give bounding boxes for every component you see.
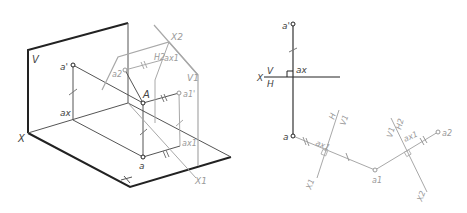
x-axis [28,103,128,133]
a1prime-ax1-line [179,93,180,146]
epure-label-aprime: a' [282,21,290,31]
label-a: a [139,161,145,171]
label-V: V [32,54,40,65]
epure-point-aprime [291,22,295,26]
tick-mark [166,150,169,157]
label-ax: ax [60,108,72,118]
point-a [141,155,145,159]
point-a2 [123,68,127,72]
projection-diagram: V X a' ax A a a1' ax1 X1 X2 H2 ax1 a2 V1 [0,0,467,213]
point-a1prime [177,91,181,95]
epure-label-V: V [267,66,274,76]
point-A [141,101,145,105]
epure-point-a1 [373,168,377,172]
epure-label-a: a [283,132,289,142]
right-angle-mark [287,71,293,77]
label-a2: a2 [112,70,122,79]
epure-a-a1-line [293,136,375,170]
label-aprime: a' [60,62,68,72]
h-marker-tick [124,176,130,183]
epure-label-V1-left: V1 [338,114,350,127]
tick-mark [346,153,349,161]
ax-a-line [73,120,143,157]
epure-label-H: H [267,79,274,89]
label-A: A [142,89,150,100]
point-aprime [71,63,75,67]
isometric-view: V X a' ax A a a1' ax1 X1 X2 H2 ax1 a2 V1 [17,23,231,187]
h2-plane-outline [102,42,198,90]
epure-label-H2-right: H2 [394,117,406,130]
tick-mark [161,95,164,102]
tick-mark [163,151,166,158]
epure-label-a1: a1 [372,176,382,185]
epure-view: a' ax X V H a ax1 H V1 X1 a1 V1 H2 ax1 a… [256,21,452,204]
epure-point-a2 [436,130,440,134]
epure-label-X2: X2 [415,190,427,204]
label-a1prime: a1' [183,90,195,99]
epure-label-X1: X1 [304,178,316,192]
label-ax1-upper: ax1 [164,54,179,63]
label-X: X [17,133,26,144]
label-ax1: ax1 [182,139,197,148]
epure-point-a [291,134,295,138]
a-ax1-line [143,146,180,157]
epure-label-ax1-right: ax1 [402,129,419,143]
tick-mark [420,138,424,145]
label-X1: X1 [194,176,207,186]
epure-label-a2: a2 [442,129,452,138]
label-V1: V1 [187,73,199,83]
epure-label-ax: ax [296,65,308,75]
epure-label-X: X [256,73,264,83]
label-X2: X2 [170,32,183,42]
